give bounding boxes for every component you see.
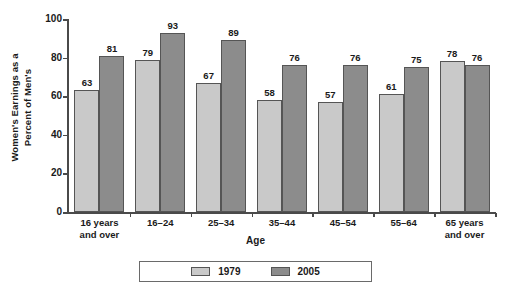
bar-value-label: 93 <box>154 21 191 31</box>
category-label: 45–54 <box>312 217 373 229</box>
bar-value-label: 89 <box>215 28 252 38</box>
bar-1979-5 <box>318 102 343 212</box>
y-tick-label: 60 <box>36 91 62 101</box>
bar-group: 6175 <box>373 19 434 212</box>
legend-label-2005: 2005 <box>298 267 320 277</box>
y-tick-label: 0 <box>36 207 62 217</box>
category-label: 25–34 <box>191 217 252 229</box>
bar-group: 6381 <box>69 19 130 212</box>
bar-group: 6789 <box>191 19 252 212</box>
y-tick-label: 40 <box>36 130 62 140</box>
chart-legend: 1979 2005 <box>139 261 372 282</box>
bar-value-label: 75 <box>398 55 435 65</box>
y-axis-title-line2: Percent of Men's <box>21 53 34 161</box>
bar-2005-4 <box>282 65 307 212</box>
y-axis-title: Women's Earnings as a Percent of Men's <box>0 0 42 215</box>
bar-2005-2 <box>160 33 185 212</box>
bar-value-label: 76 <box>276 53 313 63</box>
bar-group: 5876 <box>252 19 313 212</box>
bar-1979-4 <box>257 100 282 212</box>
bar-1979-3 <box>196 83 221 212</box>
category-label-line1: 55–64 <box>390 217 416 228</box>
bar-2005-1 <box>99 56 124 212</box>
bar-group: 7993 <box>130 19 191 212</box>
bar-value-label: 81 <box>93 44 130 54</box>
bar-group: 7876 <box>434 19 495 212</box>
y-tick-label: 20 <box>36 168 62 178</box>
bar-1979-7 <box>440 61 465 212</box>
category-label: 16–24 <box>130 217 191 229</box>
bar-value-label: 76 <box>459 53 496 63</box>
bar-2005-3 <box>221 40 246 212</box>
x-axis-title: Age <box>0 235 511 246</box>
chart-figure: Women's Earnings as a Percent of Men's 0… <box>0 0 511 293</box>
category-label-line1: 16–24 <box>147 217 173 228</box>
category-label-line1: 65 years <box>446 217 484 228</box>
x-tick-mark-end <box>495 213 497 217</box>
bar-2005-6 <box>404 67 429 212</box>
bar-2005-7 <box>465 65 490 212</box>
category-label-line1: 16 years <box>80 217 118 228</box>
category-label-line1: 25–34 <box>208 217 234 228</box>
y-axis-title-line1: Women's Earnings as a <box>9 53 20 161</box>
bar-2005-5 <box>343 65 368 212</box>
legend-item-1979: 1979 <box>191 267 240 277</box>
category-label: 35–44 <box>252 217 313 229</box>
legend-label-1979: 1979 <box>218 267 240 277</box>
plot-area: 6381799367895876577661757876 <box>69 19 495 212</box>
bar-1979-1 <box>74 90 99 212</box>
bar-1979-6 <box>379 94 404 212</box>
legend-swatch-1979 <box>191 267 210 276</box>
y-tick-label: 100 <box>36 14 62 24</box>
legend-item-2005: 2005 <box>271 267 320 277</box>
bar-value-label: 76 <box>337 53 374 63</box>
category-label-line1: 35–44 <box>269 217 295 228</box>
legend-swatch-2005 <box>271 267 290 276</box>
category-label: 55–64 <box>373 217 434 229</box>
bar-group: 5776 <box>312 19 373 212</box>
bar-1979-2 <box>135 60 160 212</box>
y-tick-label: 80 <box>36 53 62 63</box>
category-label-line1: 45–54 <box>330 217 356 228</box>
x-axis-line <box>67 212 496 214</box>
